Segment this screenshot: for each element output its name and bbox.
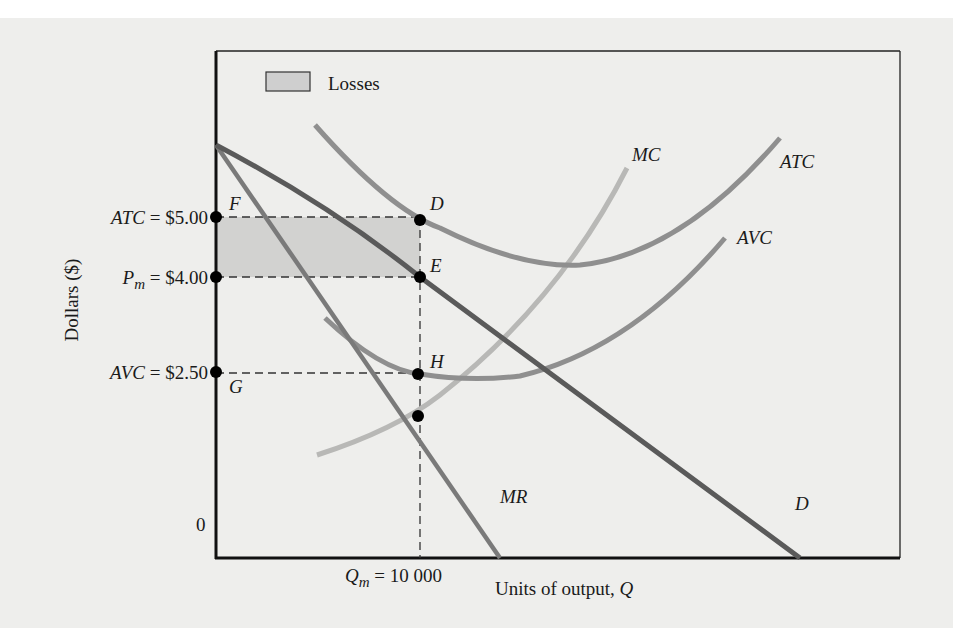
ytick-atc: ATC = $5.00 <box>109 207 208 228</box>
ytick-avc: AVC = $2.50 <box>108 362 208 383</box>
origin-label: 0 <box>196 514 206 535</box>
monopoly-losses-chart: Losses ATC = $5.00 Pm = $4.00 AVC = $2.5… <box>0 0 953 633</box>
point-label-D: D <box>429 193 444 214</box>
curve-label-demand: D <box>794 493 809 514</box>
point-label-E: E <box>429 255 442 276</box>
point-E <box>414 271 426 283</box>
point-D <box>414 214 426 226</box>
curve-label-mc: MC <box>631 144 661 165</box>
x-axis-title: Units of output, Q <box>495 578 634 599</box>
curve-mr <box>216 145 500 558</box>
point-label-F: F <box>228 193 241 214</box>
xtick-qm: Qm = 10 000 <box>345 565 442 590</box>
losses-region <box>217 217 420 277</box>
curve-label-atc: ATC <box>778 151 814 172</box>
ytick-pm: Pm = $4.00 <box>122 267 208 292</box>
curve-label-mr: MR <box>499 486 528 507</box>
point-label-H: H <box>429 351 445 372</box>
y-axis-title: Dollars ($) <box>61 259 83 342</box>
point-label-G: G <box>229 376 243 397</box>
legend-label-losses: Losses <box>328 73 380 94</box>
point-atc-axis <box>210 211 222 223</box>
point-H <box>412 368 424 380</box>
curve-mc <box>317 168 627 455</box>
legend-swatch-losses <box>266 72 310 91</box>
curve-label-avc: AVC <box>735 227 772 248</box>
point-avc-axis <box>210 366 222 378</box>
point-pm-axis <box>210 271 222 283</box>
point-mr-mc <box>412 410 424 422</box>
